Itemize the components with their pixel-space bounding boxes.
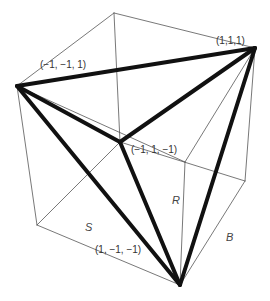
tetra-edge-CH	[180, 48, 255, 285]
cube-edge-EG	[37, 142, 120, 225]
face-label-b: B	[226, 232, 233, 243]
vertex-label-1-1-1: (1,1,1)	[216, 36, 245, 46]
cube-edge-AB	[17, 13, 114, 86]
cube-edge-DC	[185, 48, 255, 162]
vertex-label-neg1-neg1-1: (−1, −1, 1)	[40, 60, 86, 70]
cube-edge-FH	[180, 181, 245, 285]
tetra-edge-CE	[120, 48, 255, 142]
tetra-edge-AE	[17, 86, 120, 142]
face-label-r: R	[172, 195, 180, 206]
cube-edge-BE	[114, 13, 120, 142]
vertex-label-1-neg1-neg1: (1, −1, −1)	[95, 245, 141, 255]
face-label-s: S	[85, 222, 92, 233]
vertex-label-neg1-1-neg1: (−1, 1, −1)	[131, 145, 177, 155]
